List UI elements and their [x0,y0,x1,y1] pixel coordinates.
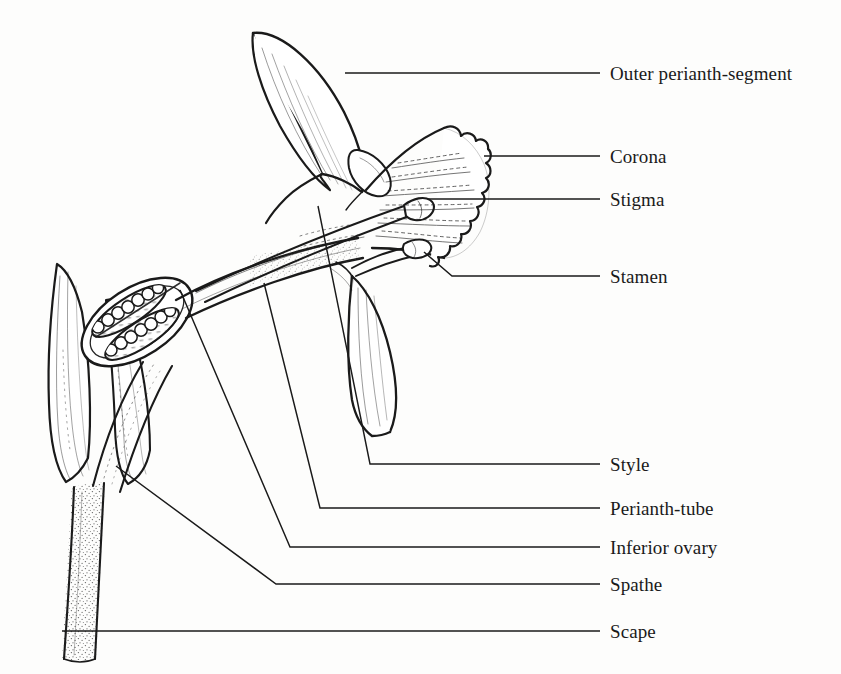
label-style: Style [610,455,650,474]
leader-stamen [424,252,600,276]
flower-illustration [0,0,841,674]
leader-spathe [116,466,600,584]
label-perianth-tube: Perianth-tube [610,499,714,518]
label-corona: Corona [610,147,667,166]
label-scape: Scape [610,622,656,641]
diagram-sheet: Outer perianth-segment Corona Stigma Sta… [0,0,841,674]
label-inferior-ovary: Inferior ovary [610,538,717,557]
scape-stem [58,480,110,665]
stigma-knob [404,198,434,220]
label-stigma: Stigma [610,190,664,209]
label-outer-perianth-segment: Outer perianth-segment [610,64,792,83]
label-spathe: Spathe [610,575,662,594]
outer-perianth-segment-upper [253,33,365,223]
inner-tepal-lobe [348,150,390,196]
outer-perianth-segment-lower [330,262,396,436]
leader-perianth-tube [264,283,600,508]
label-stamen: Stamen [610,267,668,286]
